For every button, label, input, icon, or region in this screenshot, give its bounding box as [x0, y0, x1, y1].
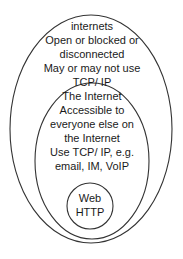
outer-label-line: TCP/ IP [73, 76, 112, 88]
middle-label-line: Accessible to [60, 104, 125, 116]
inner-label: Web HTTP [76, 192, 105, 218]
middle-label-line: Use TCP/ IP, e.g. [50, 146, 134, 158]
outer-label-line: internets [71, 20, 114, 32]
inner-label-line: HTTP [76, 206, 105, 218]
middle-label: The Internet Accessible to everyone else… [50, 90, 134, 172]
outer-label-line: disconnected [60, 48, 125, 60]
outer-label-line: May or may not use [44, 62, 141, 74]
middle-label-line: everyone else on [50, 118, 134, 130]
nested-ellipse-diagram: internets Open or blocked or disconnecte… [0, 0, 183, 259]
inner-label-line: Web [79, 192, 101, 204]
outer-label-line: Open or blocked or [45, 34, 139, 46]
middle-label-line: the Internet [64, 132, 120, 144]
middle-label-line: email, IM, VoIP [55, 160, 129, 172]
outer-label: internets Open or blocked or disconnecte… [44, 20, 141, 88]
middle-label-line: The Internet [62, 90, 121, 102]
